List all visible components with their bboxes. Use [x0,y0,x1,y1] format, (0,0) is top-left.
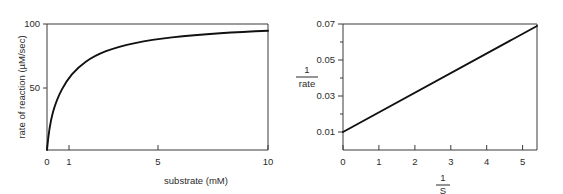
chart-panel-michaelis-menten: 100 50 0 1 5 10 rate of reaction (µM/sec… [0,0,283,194]
x-tick-label-2: 2 [412,156,417,167]
x-axis-title: substrate (mM) [164,175,228,186]
y-axis-title-fraction: 1 rate [296,64,318,89]
x-tick-label-0: 0 [44,156,49,167]
x-axis-title-fraction: 1 S [436,172,450,194]
lineweaver-burk-line [343,26,537,132]
x-tick-label-1: 1 [66,156,71,167]
x-tick-label-3: 3 [448,156,453,167]
x-axis-title-numerator: 1 [440,172,445,183]
y-tick-label-0.05: 0.05 [317,54,336,65]
x-tick-label-5: 5 [155,156,160,167]
y-axis-title-denominator: rate [299,78,315,89]
x-tick-label-1: 1 [376,156,381,167]
x-tick-label-0: 0 [340,156,345,167]
x-tick-label-10: 10 [263,156,274,167]
y-tick-label-50: 50 [29,82,40,93]
figure-container: 100 50 0 1 5 10 rate of reaction (µM/sec… [0,0,563,194]
x-tick-label-4: 4 [484,156,489,167]
x-tick-label-5: 5 [520,156,525,167]
saturation-curve [47,31,268,150]
x-axis-title-denominator: S [440,185,446,194]
y-axis-title: rate of reaction (µM/sec) [16,35,27,138]
y-tick-label-100: 100 [24,18,40,29]
y-tick-label-0.01: 0.01 [317,126,336,137]
plot-frame [47,24,268,150]
y-axis-title-numerator: 1 [304,64,309,75]
michaelis-menten-plot: 100 50 0 1 5 10 rate of reaction (µM/sec… [0,0,283,194]
chart-panel-lineweaver-burk: 0.07 0.05 0.03 0.01 0 1 2 3 4 5 1 rate 1… [283,0,563,194]
y-tick-label-0.03: 0.03 [317,90,336,101]
y-tick-label-0.07: 0.07 [317,18,336,29]
lineweaver-burk-plot: 0.07 0.05 0.03 0.01 0 1 2 3 4 5 1 rate 1… [283,0,563,194]
